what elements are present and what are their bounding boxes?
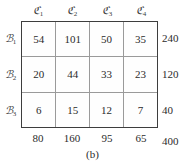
row-header-b2: ℬ2 — [1, 67, 20, 81]
cell-b2-c1: 20 — [22, 57, 56, 93]
cell-b3-c4: 7 — [123, 92, 157, 127]
script-c-symbol: ℭ — [67, 4, 74, 16]
column-header-c2: ℭ2 — [55, 2, 89, 19]
row-header-b3-subscript: 3 — [13, 110, 17, 118]
column-total-c1: 80 — [21, 131, 55, 145]
table-row: 20 44 33 23 — [22, 57, 157, 93]
script-c-symbol: ℭ — [33, 4, 40, 16]
cell-b3-c2: 15 — [56, 92, 90, 127]
figure-caption: (b) — [0, 148, 185, 160]
cell-b1-c4: 35 — [123, 22, 157, 57]
cell-b2-c3: 33 — [90, 57, 124, 93]
cell-b1-c1: 54 — [22, 22, 56, 57]
table-row: 6 15 12 7 — [22, 92, 157, 127]
column-header-c4-subscript: 4 — [143, 10, 147, 18]
grand-total: 400 — [162, 134, 191, 148]
table-row: 54 101 50 35 — [22, 22, 157, 57]
row-total-b1: 240 — [162, 31, 190, 45]
column-header-c1-subscript: 1 — [40, 10, 44, 18]
column-header-c4: ℭ4 — [124, 2, 158, 19]
cell-b3-c3: 12 — [90, 92, 124, 127]
cell-b1-c3: 50 — [90, 22, 124, 57]
column-header-c2-subscript: 2 — [74, 10, 78, 18]
script-b-symbol: ℬ — [5, 32, 13, 44]
cell-b1-c2: 101 — [56, 22, 90, 57]
frequency-table: 54 101 50 35 20 44 33 23 6 15 12 7 — [22, 22, 157, 127]
column-header-c1: ℭ1 — [21, 2, 55, 19]
column-total-c2: 160 — [55, 131, 89, 145]
row-total-b2: 120 — [162, 67, 190, 81]
cell-b3-c1: 6 — [22, 92, 56, 127]
contingency-table-figure: ℭ1 ℭ2 ℭ3 ℭ4 ℬ1 ℬ2 ℬ3 54 101 50 35 20 44 … — [0, 0, 191, 165]
column-total-c4: 65 — [124, 131, 158, 145]
table-grid: 54 101 50 35 20 44 33 23 6 15 12 7 — [21, 21, 158, 128]
cell-b2-c2: 44 — [56, 57, 90, 93]
script-b-symbol: ℬ — [5, 104, 13, 116]
cell-b2-c4: 23 — [123, 57, 157, 93]
column-header-c3: ℭ3 — [90, 2, 124, 19]
script-b-symbol: ℬ — [5, 68, 13, 80]
row-header-b1: ℬ1 — [1, 31, 20, 45]
row-header-b1-subscript: 1 — [13, 38, 17, 46]
column-header-c3-subscript: 3 — [109, 10, 113, 18]
row-header-b2-subscript: 2 — [13, 74, 17, 82]
row-header-b3: ℬ3 — [1, 103, 20, 117]
column-total-c3: 95 — [90, 131, 124, 145]
row-total-b3: 40 — [162, 103, 190, 117]
script-c-symbol: ℭ — [136, 4, 143, 16]
script-c-symbol: ℭ — [102, 4, 109, 16]
